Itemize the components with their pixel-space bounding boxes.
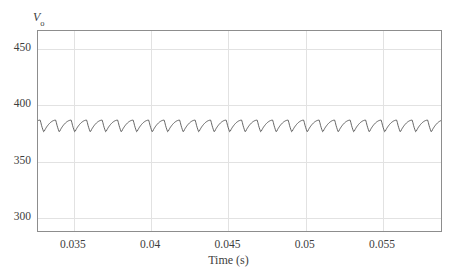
x-axis-tick-label: 0.045 [197,239,257,251]
y-axis-tick-label: 450 [1,42,31,54]
x-axis-tick-label: 0.04 [120,239,180,251]
x-axis-tick-label: 0.035 [43,239,103,251]
y-axis-tick-label: 350 [1,155,31,167]
y-axis-title-subscript: o [40,18,44,28]
y-axis-title: Vo [33,11,45,26]
y-axis-tick-label: 300 [1,211,31,223]
chart-figure: Vo 450400350300 0.0350.040.0450.050.055 … [0,0,457,275]
x-axis-tick-label: 0.055 [352,239,412,251]
x-axis-title: Time (s) [0,254,457,266]
plot-inner [38,31,441,231]
plot-area [37,30,442,232]
waveform-trace [38,31,441,231]
x-axis-tick-label: 0.05 [275,239,335,251]
y-axis-tick-label: 400 [1,98,31,110]
